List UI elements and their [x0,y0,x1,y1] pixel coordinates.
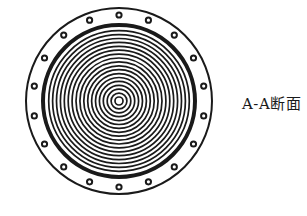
bolt-hole-icon [116,184,121,189]
thick-ring [43,25,195,177]
flange-outer-edge [26,8,212,194]
bolt-hole-icon [42,141,47,146]
bolt-hole-icon [146,179,151,184]
bolt-hole-icon [32,113,37,118]
bolt-hole-icon [146,18,151,23]
concentric-ring [76,58,162,144]
bolt-hole-icon [201,83,206,88]
bolt-hole-icon [172,33,177,38]
concentric-ring [111,93,127,109]
bolt-hole-icon [172,164,177,169]
bolt-hole-icon [201,113,206,118]
bolt-hole-icon [61,164,66,169]
bolt-hole-icon [32,83,37,88]
concentric-ring [84,66,154,136]
concentric-ring [49,31,190,172]
bolt-hole-icon [42,55,47,60]
bolt-hole-icon [87,18,92,23]
bolt-hole-icon [191,55,196,60]
bolt-hole-icon [61,33,66,38]
concentric-ring [88,70,151,133]
thick-inner-ring [43,25,195,177]
concentric-rings [49,31,190,172]
concentric-ring [72,54,166,148]
concentric-ring [115,97,123,105]
bolt-hole-icon [87,179,92,184]
section-label: A-A断面 [242,92,301,113]
bolt-hole-icon [191,141,196,146]
concentric-ring [99,81,138,120]
concentric-ring [60,42,177,159]
flange-outer-circle [26,8,212,194]
bolt-hole-icon [116,12,121,17]
